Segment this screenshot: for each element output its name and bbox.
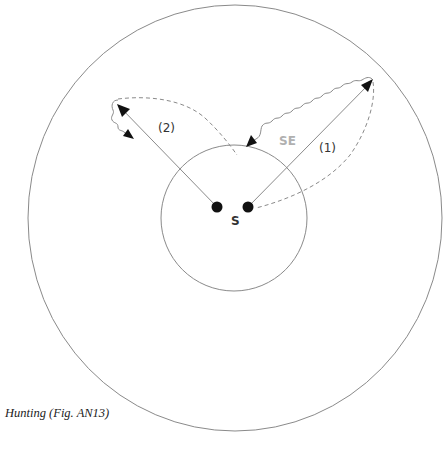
path1-outbound-arrow xyxy=(248,83,370,207)
se-arrowhead-icon xyxy=(246,135,257,147)
se-wavy-path xyxy=(251,77,372,142)
path1-dashed-return xyxy=(256,82,374,208)
origin-dot-left xyxy=(212,202,223,213)
center-label: S xyxy=(231,215,240,227)
figure-caption: Hunting (Fig. AN13) xyxy=(5,406,109,421)
path1-label: (1) xyxy=(319,142,336,154)
diagram-svg xyxy=(0,0,446,454)
origin-dot-right xyxy=(243,202,254,213)
path2-label: (2) xyxy=(158,122,175,134)
hunting-diagram: S SE (1) (2) Hunting (Fig. AN13) xyxy=(0,0,446,454)
path2-wavy-arrowhead-icon xyxy=(123,129,134,139)
search-edge-label: SE xyxy=(279,135,296,147)
